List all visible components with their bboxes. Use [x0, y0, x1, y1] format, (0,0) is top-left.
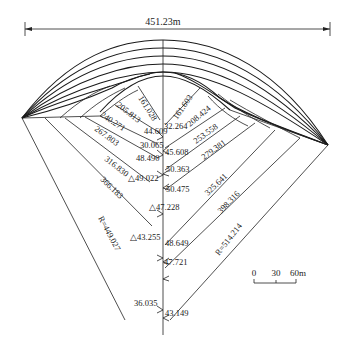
scale-tick-60: 60m — [290, 268, 306, 278]
angle-label: 45.608 — [165, 147, 188, 157]
angle-label: 32.264 — [164, 121, 188, 131]
scale-tick-30: 30 — [272, 268, 282, 278]
radius-left-label: R=449.027 — [96, 214, 123, 252]
ray-label: 325.641 — [202, 171, 229, 197]
radius-right-label: R=514.214 — [213, 220, 245, 257]
ray-label: 366.183 — [99, 174, 126, 200]
width-dimension: 451.23m — [25, 16, 330, 36]
width-label: 451.23m — [145, 16, 181, 27]
angle-label: 43.149 — [165, 308, 188, 318]
angle-labels: 44.609 32.264 30.065 45.608 48.490 50.36… — [128, 121, 189, 318]
angle-label: △47.228 — [149, 202, 179, 212]
angle-label: 48.649 — [165, 238, 188, 248]
angle-label: 50.475 — [166, 184, 189, 194]
right-ray-labels: 161.603 208.424 253.558 279.381 325.641 … — [170, 93, 244, 257]
angle-label: 47.721 — [164, 257, 187, 267]
scale-bar: 0 30 60m — [252, 268, 306, 283]
diagram-canvas: 451.23m — [0, 0, 344, 352]
angle-label: △43.255 — [130, 232, 160, 242]
ray-label: 398.316 — [215, 189, 241, 216]
left-rays — [22, 86, 160, 320]
angle-label: △49.022 — [128, 173, 158, 183]
angle-label: 30.065 — [140, 140, 163, 150]
scale-tick-0: 0 — [252, 268, 257, 278]
angle-label: 50.363 — [166, 164, 189, 174]
angle-label: 36.035 — [134, 298, 157, 308]
arch-dam-diagram: 451.23m — [0, 0, 344, 352]
angle-label: 48.490 — [136, 153, 159, 163]
